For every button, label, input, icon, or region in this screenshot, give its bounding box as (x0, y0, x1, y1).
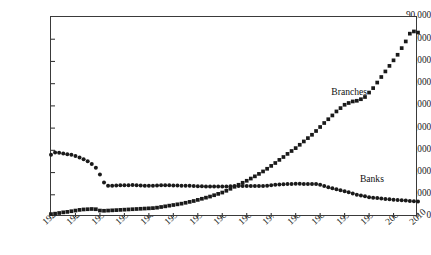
data-point (302, 140, 306, 144)
data-point (326, 117, 330, 121)
data-point (343, 189, 347, 193)
data-point (102, 209, 106, 213)
series-branches (49, 30, 420, 216)
data-point (290, 149, 294, 153)
data-point (294, 146, 298, 150)
plot-area (50, 16, 417, 216)
data-point (245, 184, 249, 188)
data-point (151, 184, 155, 188)
data-point (273, 161, 277, 165)
data-point (94, 166, 98, 170)
data-point (277, 183, 281, 187)
data-point (53, 212, 57, 216)
data-point (396, 53, 400, 57)
data-point (61, 151, 65, 155)
data-point (204, 196, 208, 200)
data-point (114, 208, 118, 212)
data-point (122, 183, 126, 187)
data-point (188, 184, 192, 188)
data-point (245, 179, 249, 183)
data-point (412, 199, 416, 203)
data-point (200, 184, 204, 188)
data-point (49, 153, 53, 157)
data-point (147, 184, 151, 188)
data-point (82, 157, 86, 161)
data-point (135, 183, 139, 187)
data-point (298, 143, 302, 147)
data-point (367, 195, 371, 199)
data-point (98, 209, 102, 213)
data-point (53, 151, 57, 155)
data-point (127, 208, 131, 212)
data-point (216, 185, 220, 189)
data-point (70, 209, 74, 213)
data-point (65, 210, 69, 214)
data-point (61, 210, 65, 214)
data-point (318, 183, 322, 187)
data-point (326, 185, 330, 189)
data-point (388, 64, 392, 68)
data-point (86, 159, 90, 163)
data-point (286, 152, 290, 156)
data-point (147, 206, 151, 210)
data-point (179, 184, 183, 188)
data-point (143, 184, 147, 188)
series-label-banks: Banks (360, 174, 384, 184)
data-point (302, 182, 306, 186)
data-point (294, 182, 298, 186)
data-point (74, 209, 78, 213)
data-point (208, 195, 212, 199)
data-point (330, 186, 334, 190)
data-point (118, 183, 122, 187)
data-point (371, 86, 375, 90)
data-point (261, 184, 265, 188)
data-point (192, 199, 196, 203)
data-point (118, 208, 122, 212)
data-point (359, 97, 363, 101)
data-point (261, 170, 265, 174)
data-point (163, 183, 167, 187)
data-point (355, 99, 359, 103)
data-point (265, 167, 269, 171)
data-point (216, 192, 220, 196)
data-point (200, 197, 204, 201)
data-point (171, 183, 175, 187)
data-point (408, 199, 412, 203)
data-point (155, 206, 159, 210)
data-point (306, 136, 310, 140)
data-point (65, 152, 69, 156)
data-point (400, 46, 404, 50)
data-point (331, 114, 335, 118)
data-series-layer (51, 17, 418, 217)
data-point (392, 58, 396, 62)
data-point (343, 103, 347, 107)
data-point (167, 204, 171, 208)
data-point (400, 198, 404, 202)
data-point (392, 198, 396, 202)
data-point (78, 208, 82, 212)
data-point (126, 183, 130, 187)
data-point (196, 198, 200, 202)
data-point (131, 183, 135, 187)
data-point (159, 205, 163, 209)
chart-figure: 90,00080,00070,00060,00050,00040,00030,0… (0, 0, 431, 255)
data-point (204, 185, 208, 189)
data-point (387, 197, 391, 201)
data-point (98, 173, 102, 177)
data-point (282, 155, 286, 159)
data-point (318, 125, 322, 129)
data-point (257, 172, 261, 176)
data-point (90, 162, 94, 166)
data-point (379, 75, 383, 79)
data-point (106, 184, 110, 188)
data-point (310, 182, 314, 186)
data-point (416, 199, 420, 203)
data-point (86, 207, 90, 211)
data-point (375, 81, 379, 85)
data-point (273, 183, 277, 187)
data-point (171, 203, 175, 207)
data-point (339, 188, 343, 192)
data-point (220, 191, 224, 195)
data-point (412, 30, 416, 34)
series-label-branches: Branches (331, 87, 367, 97)
